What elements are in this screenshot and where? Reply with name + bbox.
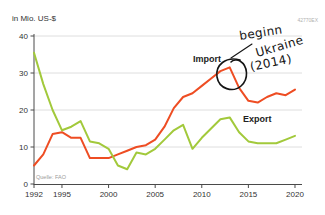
x-tick-label: 2015 bbox=[239, 190, 257, 199]
x-tick-label: 2010 bbox=[193, 190, 211, 199]
annotation-circle bbox=[217, 59, 247, 89]
chart-panel: 0102030401992199520002005201020152020 in… bbox=[0, 0, 325, 215]
y-tick-label: 40 bbox=[19, 32, 28, 41]
x-tick-label: 2005 bbox=[146, 190, 164, 199]
x-tick-label: 2000 bbox=[100, 190, 118, 199]
source-label: Quelle: FAO bbox=[36, 174, 67, 180]
y-tick-label: 10 bbox=[19, 143, 28, 152]
figure-id-label: 42770EX bbox=[297, 17, 318, 23]
y-tick-label: 30 bbox=[19, 69, 28, 78]
import-series-label: Import bbox=[193, 54, 221, 64]
y-axis-unit-label: in Mio. US-$ bbox=[12, 14, 57, 23]
handwritten-annotation: beginn Ukraine (2014) bbox=[217, 22, 305, 89]
x-tick-label: 1995 bbox=[53, 190, 71, 199]
line-chart: 0102030401992199520002005201020152020 in… bbox=[0, 0, 325, 215]
x-tick-label: 2020 bbox=[286, 190, 304, 199]
x-tick-label: 1992 bbox=[25, 190, 43, 199]
annotation-connector-line bbox=[231, 44, 252, 58]
export-series-label: Export bbox=[243, 114, 272, 124]
y-tick-label: 20 bbox=[19, 106, 28, 115]
y-tick-label: 0 bbox=[24, 180, 29, 189]
